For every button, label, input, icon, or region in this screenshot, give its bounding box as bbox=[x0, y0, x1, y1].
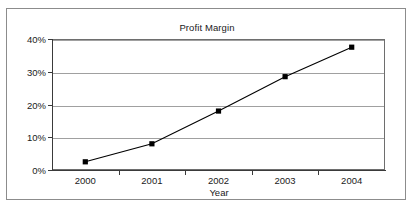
data-point-marker bbox=[149, 141, 154, 146]
data-point-marker bbox=[216, 108, 221, 113]
chart-frame: Profit Margin 0%10%20%30%40% 20002001200… bbox=[6, 8, 406, 200]
x-axis-title: Year bbox=[52, 187, 386, 198]
data-point-marker bbox=[349, 45, 354, 50]
data-series-line bbox=[7, 9, 406, 200]
data-point-marker bbox=[283, 74, 288, 79]
data-point-marker bbox=[83, 159, 88, 164]
